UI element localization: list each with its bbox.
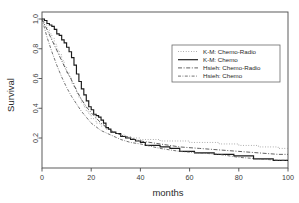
legend-label-3: Hsieh: Chemo [203, 72, 243, 79]
y-tick-label: 0.4 [31, 103, 40, 113]
x-tick-label: 100 [282, 173, 294, 182]
x-tick-label: 20 [87, 173, 95, 182]
series-layer [42, 19, 288, 160]
chart-legend: K-M: Chemo-RadioK-M: ChemoHsieh: Chemo-R… [172, 45, 280, 82]
y-tick-label: 0.8 [31, 44, 40, 54]
tick-labels: 0204060801000.20.40.60.81.0 [31, 14, 294, 182]
tick-marks [39, 19, 289, 172]
legend-label-0: K-M: Chemo-Radio [203, 48, 257, 55]
series-line-0 [42, 19, 288, 148]
x-tick-label: 0 [40, 173, 44, 182]
y-tick-label: 0.6 [31, 74, 40, 84]
legend-label-2: Hsieh: Chemo-Radio [203, 64, 261, 71]
x-tick-label: 60 [186, 173, 194, 182]
x-tick-label: 80 [235, 173, 243, 182]
survival-plot-figure: 0204060801000.20.40.60.81.0 K-M: Chemo-R… [0, 0, 299, 203]
series-line-3 [42, 19, 288, 160]
y-axis-label: Survival [5, 78, 16, 112]
plot-canvas: 0204060801000.20.40.60.81.0 K-M: Chemo-R… [0, 0, 299, 203]
y-tick-label: 1.0 [31, 14, 40, 24]
x-tick-label: 40 [136, 173, 144, 182]
legend-label-1: K-M: Chemo [203, 56, 238, 63]
x-axis-label: months [152, 187, 183, 198]
series-line-2 [42, 19, 288, 154]
y-tick-label: 0.2 [31, 133, 40, 143]
series-line-1 [42, 19, 288, 160]
